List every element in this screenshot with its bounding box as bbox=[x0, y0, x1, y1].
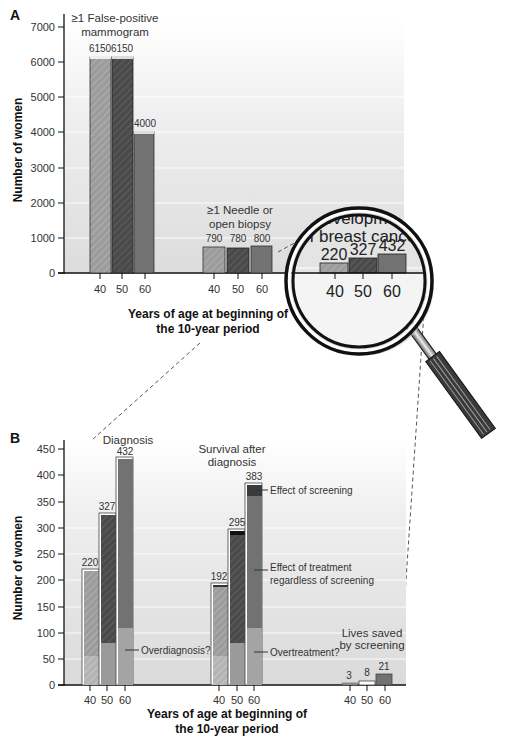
annotation-overdiagnosis: Overdiagnosis? bbox=[141, 645, 211, 656]
bar-value: 4000 bbox=[134, 118, 157, 129]
svg-text:60: 60 bbox=[139, 283, 151, 295]
bar-value: 383 bbox=[246, 471, 263, 482]
bar-40 bbox=[90, 57, 111, 273]
svg-text:50: 50 bbox=[232, 283, 244, 295]
svg-text:40: 40 bbox=[344, 694, 356, 706]
group-label: Survival after bbox=[198, 443, 265, 455]
svg-text:100: 100 bbox=[37, 627, 55, 639]
group-label: ≥1 Needle or bbox=[207, 204, 273, 216]
panel-b: B 0 50 100 150 200 250 300 350 400 450 N… bbox=[10, 430, 406, 736]
group-label: Diagnosis bbox=[103, 434, 154, 446]
svg-text:0: 0 bbox=[49, 679, 55, 691]
annotation-overtreatment: Overtreatment? bbox=[270, 647, 340, 658]
svg-text:60: 60 bbox=[383, 283, 401, 300]
bar-60-overdiagnosis bbox=[118, 628, 133, 685]
y-tick-label: 7000 bbox=[31, 21, 55, 33]
panel-b-y-axis-label: Number of women bbox=[11, 516, 25, 621]
svg-text:60: 60 bbox=[248, 694, 260, 706]
svg-text:350: 350 bbox=[37, 496, 55, 508]
connector-line bbox=[92, 343, 200, 440]
svg-text:40: 40 bbox=[94, 283, 106, 295]
bar-value: 790 bbox=[206, 233, 223, 244]
svg-text:40: 40 bbox=[213, 694, 225, 706]
bar-40 bbox=[342, 683, 358, 685]
svg-text:250: 250 bbox=[37, 548, 55, 560]
svg-text:60: 60 bbox=[256, 283, 268, 295]
svg-text:50: 50 bbox=[101, 694, 113, 706]
svg-text:50: 50 bbox=[43, 653, 55, 665]
bar-40-screening-effect bbox=[213, 585, 228, 587]
bar-value: 327 bbox=[350, 241, 377, 258]
bar-value: 327 bbox=[99, 501, 116, 512]
bar-value: 21 bbox=[378, 661, 390, 672]
bar-60 bbox=[251, 246, 272, 273]
y-tick-label: 3000 bbox=[31, 162, 55, 174]
svg-text:50: 50 bbox=[361, 694, 373, 706]
annotation-effect-of-treatment: regardless of screening bbox=[270, 575, 374, 586]
panel-a-x-axis-label: the 10-year period bbox=[156, 322, 259, 336]
group-label: diagnosis bbox=[208, 456, 257, 468]
panel-a-y-ticks: 0 1000 2000 3000 4000 5000 6000 7000 bbox=[31, 21, 64, 279]
magnifying-glass: Development of breast cancer 220 327 432… bbox=[286, 208, 495, 438]
bar-group-biopsy: ≥1 Needle or open biopsy 790 780 800 bbox=[203, 204, 273, 273]
bar-value: 780 bbox=[230, 233, 247, 244]
y-tick-label: 1000 bbox=[31, 232, 55, 244]
svg-text:400: 400 bbox=[37, 469, 55, 481]
y-tick-label: 5000 bbox=[31, 91, 55, 103]
bar-value: 8 bbox=[364, 667, 370, 678]
bar-value: 6150 bbox=[111, 43, 134, 54]
bar-60 bbox=[378, 254, 406, 273]
svg-text:40: 40 bbox=[84, 694, 96, 706]
y-tick-label: 2000 bbox=[31, 197, 55, 209]
bar-40 bbox=[203, 247, 225, 273]
bar-value: 220 bbox=[82, 557, 99, 568]
bar-50 bbox=[112, 57, 133, 273]
bar-value: 432 bbox=[379, 237, 406, 254]
bar-60 bbox=[134, 132, 154, 273]
bar-40 bbox=[320, 263, 348, 273]
bar-value: 220 bbox=[321, 246, 348, 263]
panel-b-x-axis-label: the 10-year period bbox=[175, 722, 278, 736]
svg-text:50: 50 bbox=[354, 283, 372, 300]
bar-40-overtreatment bbox=[213, 656, 228, 685]
y-tick-label: 0 bbox=[49, 267, 55, 279]
bar-value: 6150 bbox=[89, 43, 112, 54]
annotation-effect-of-treatment: Effect of treatment bbox=[270, 562, 352, 573]
svg-text:50: 50 bbox=[116, 283, 128, 295]
panel-b-letter: B bbox=[10, 430, 20, 446]
panel-b-x-ticks: 40 50 60 40 50 60 40 50 60 bbox=[84, 685, 391, 706]
group-label: mammogram bbox=[81, 26, 149, 38]
bar-50 bbox=[359, 681, 375, 685]
bar-value: 800 bbox=[254, 233, 271, 244]
bar-value: 3 bbox=[346, 670, 352, 681]
bar-value: 192 bbox=[211, 571, 228, 582]
panel-b-x-axis-label: Years of age at beginning of bbox=[147, 707, 308, 721]
panel-b-y-ticks: 0 50 100 150 200 250 300 350 400 450 bbox=[37, 443, 64, 691]
group-label: by screening bbox=[339, 639, 404, 651]
svg-text:50: 50 bbox=[231, 694, 243, 706]
bar-50-overtreatment bbox=[230, 643, 245, 685]
svg-text:450: 450 bbox=[37, 443, 55, 455]
svg-text:150: 150 bbox=[37, 601, 55, 613]
panel-a-x-ticks: 40 50 60 40 50 60 bbox=[94, 273, 268, 295]
svg-text:200: 200 bbox=[37, 574, 55, 586]
bar-value: 295 bbox=[229, 517, 246, 528]
svg-text:60: 60 bbox=[119, 694, 131, 706]
bar-60 bbox=[376, 674, 392, 685]
panel-a-y-axis-label: Number of women bbox=[11, 98, 25, 203]
y-tick-label: 4000 bbox=[31, 126, 55, 138]
group-label: Lives saved bbox=[342, 627, 403, 639]
panel-a-letter: A bbox=[10, 7, 20, 23]
annotation-effect-of-screening: Effect of screening bbox=[270, 485, 353, 496]
svg-text:40: 40 bbox=[326, 283, 344, 300]
bar-50 bbox=[227, 248, 249, 273]
bar-value: 432 bbox=[117, 446, 134, 457]
bar-40-overdiagnosis bbox=[84, 656, 99, 685]
bar-60-overtreatment bbox=[247, 628, 262, 685]
figure: A 0 1000 2000 3000 4000 5000 6000 7000 N… bbox=[0, 0, 520, 737]
svg-text:40: 40 bbox=[208, 283, 220, 295]
y-tick-label: 6000 bbox=[31, 56, 55, 68]
group-label: open biopsy bbox=[209, 218, 271, 230]
bar-50 bbox=[349, 258, 377, 273]
svg-text:300: 300 bbox=[37, 522, 55, 534]
